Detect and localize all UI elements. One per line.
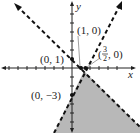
y-axis-label: y [75, 0, 81, 12]
point-0-1 [70, 57, 74, 61]
graph: x y (0, 1) (1, 0) [0, 0, 140, 133]
label-point-0-1: (0, 1) [40, 53, 64, 66]
label-point-0-minus-3: (0, −3) [31, 89, 61, 102]
label-point-3-2-close: , 0) [108, 48, 123, 61]
point-0-minus-3 [70, 93, 74, 97]
label-point-3-2-num: 3 [103, 45, 107, 54]
x-axis-label: x [127, 68, 133, 80]
shaded-region [54, 71, 140, 133]
label-point-3-2-open: ( [98, 48, 102, 61]
label-point-1-0: (1, 0) [77, 24, 101, 37]
point-1-0 [79, 66, 83, 70]
label-point-3-2-den: 2 [103, 54, 107, 63]
x-axis: x [1, 66, 136, 80]
arrow-head-upper-left [14, 3, 22, 11]
